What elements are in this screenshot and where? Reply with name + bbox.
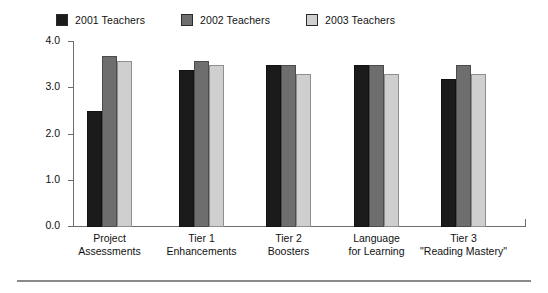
chart-legend: 2001 Teachers2002 Teachers2003 Teachers	[56, 13, 431, 27]
bar[interactable]	[384, 74, 399, 227]
legend-label: 2001 Teachers	[75, 14, 145, 26]
bar[interactable]	[456, 65, 471, 227]
bar[interactable]	[471, 74, 486, 227]
y-axis-tick-label-wrap: 4.0	[0, 35, 74, 46]
x-axis-category-label: Tier 3"Reading Mastery"	[404, 232, 524, 258]
x-axis-category-line: Tier 3	[404, 232, 524, 245]
legend-item: 2003 Teachers	[306, 14, 395, 26]
bar[interactable]	[194, 61, 209, 228]
bar[interactable]	[102, 56, 117, 227]
y-axis-tick-label: 4.0	[32, 35, 60, 46]
y-axis-tick-label-wrap: 0.0	[0, 220, 74, 231]
footer-divider	[17, 280, 531, 282]
legend-label: 2003 Teachers	[325, 14, 395, 26]
bar-group	[179, 41, 224, 227]
legend-item: 2001 Teachers	[56, 14, 145, 26]
bar-chart: 2001 Teachers2002 Teachers2003 Teachers …	[0, 0, 548, 293]
bar[interactable]	[296, 74, 311, 227]
y-axis-tick-label: 3.0	[32, 81, 60, 92]
y-axis-tick-label-wrap: 3.0	[0, 81, 74, 92]
bar-group	[266, 41, 311, 227]
y-axis-tick-label: 2.0	[32, 128, 60, 139]
y-axis-tick-label-wrap: 1.0	[0, 174, 74, 185]
legend-swatch-icon	[181, 14, 193, 26]
bar[interactable]	[441, 79, 456, 227]
y-axis-tick-label: 0.0	[32, 220, 60, 231]
bar-group	[441, 41, 486, 227]
bar[interactable]	[87, 111, 102, 227]
bar[interactable]	[281, 65, 296, 227]
bar-group	[87, 41, 132, 227]
y-axis-tick-label-wrap: 2.0	[0, 128, 74, 139]
bar[interactable]	[179, 70, 194, 227]
legend-swatch-icon	[306, 14, 318, 26]
legend-label: 2002 Teachers	[200, 14, 270, 26]
legend-swatch-icon	[56, 14, 68, 26]
x-axis-category-line: "Reading Mastery"	[404, 245, 524, 258]
legend-item: 2002 Teachers	[181, 14, 270, 26]
bar-group	[354, 41, 399, 227]
bar[interactable]	[354, 65, 369, 227]
bar[interactable]	[369, 65, 384, 227]
bar[interactable]	[117, 61, 132, 228]
bar[interactable]	[209, 65, 224, 227]
y-axis-tick-label: 1.0	[32, 174, 60, 185]
bars-container	[73, 41, 526, 227]
bar[interactable]	[266, 65, 281, 227]
